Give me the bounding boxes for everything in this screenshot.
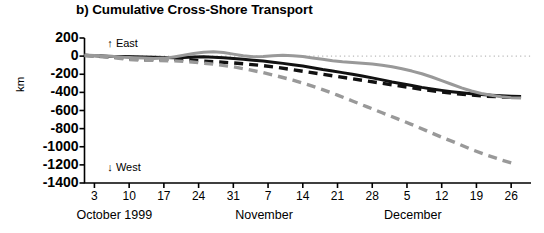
y-tick-label-6: -1000 [13, 138, 79, 154]
y-tick-label-8: -1400 [13, 174, 79, 190]
y-tick-label-7: -1200 [13, 156, 79, 172]
month-label-0: October 1999 [76, 208, 152, 222]
figure-cumulative-cross-shore-transport: b) Cumulative Cross-Shore Transport 2000… [0, 0, 544, 233]
y-tick-label-5: -800 [13, 120, 79, 136]
annotation-west: ↓ West [107, 161, 140, 173]
month-label-2: December [384, 208, 442, 222]
y-tick-label-4: -600 [13, 102, 79, 118]
y-tick-label-1: 0 [13, 47, 79, 63]
month-label-1: November [235, 208, 293, 222]
y-tick-label-0: 200 [13, 29, 79, 45]
x-tick-label-12: 26 [491, 189, 531, 203]
data-series-group [85, 52, 522, 165]
annotation-east: ↑ East [107, 37, 138, 49]
y-axis-label: km [14, 77, 26, 92]
